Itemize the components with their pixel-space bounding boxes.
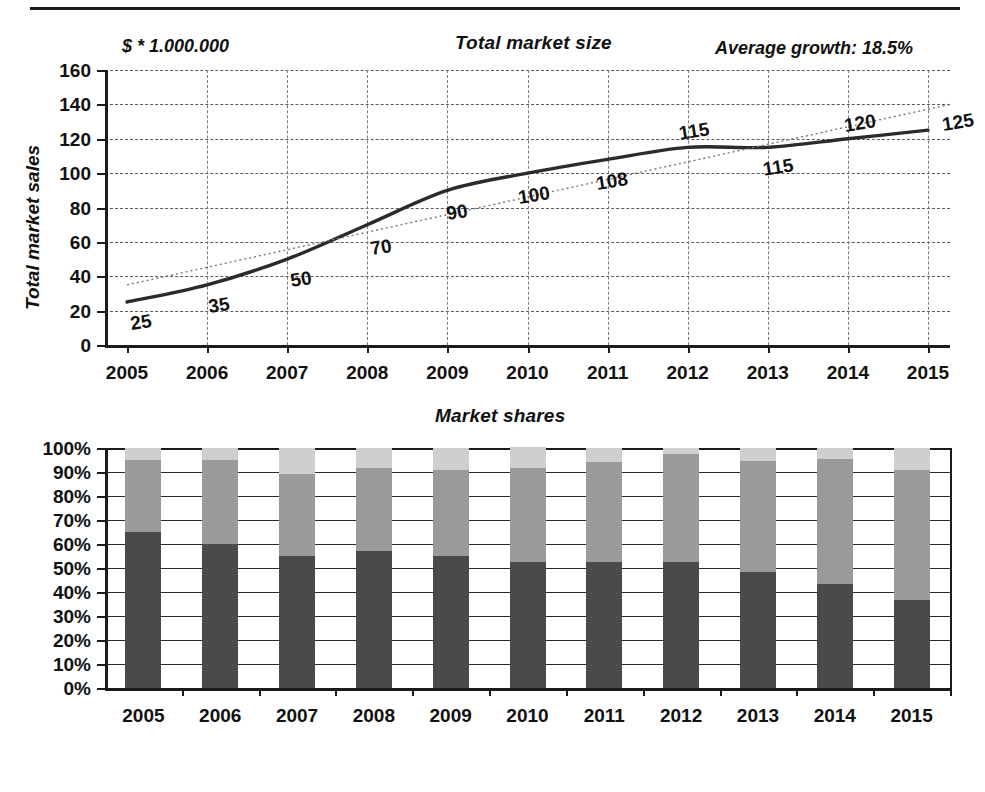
bottom-chart-x-axis (105, 688, 950, 691)
top-chart-y-tick (97, 173, 105, 175)
top-chart-y-tick (97, 311, 105, 313)
bottom-chart-y-tick-label: 40% (53, 583, 91, 602)
total-market-size-chart: Total market size $ * 1.000.000 Average … (0, 20, 985, 395)
bottom-chart-x-tick-label: 2007 (276, 706, 318, 725)
top-chart-data-label: 90 (445, 201, 469, 223)
bottom-chart-y-tick-label: 80% (53, 487, 91, 506)
stacked-bar (433, 448, 469, 688)
top-chart-gridline-v (768, 70, 769, 345)
top-chart-x-tick-label: 2006 (186, 363, 228, 382)
top-chart-y-tick (97, 70, 105, 72)
top-chart-y-tick (97, 242, 105, 244)
top-chart-x-tick-label: 2015 (907, 363, 949, 382)
header-divider (30, 7, 960, 10)
bar-segment-emerging-players (125, 448, 161, 460)
top-chart-title: Total market size (455, 32, 612, 54)
bottom-chart-y-tick (97, 640, 105, 642)
bottom-chart-x-tick-label: 2010 (506, 706, 548, 725)
top-chart-x-tick-label: 2013 (747, 363, 789, 382)
bottom-chart-x-tick-label: 2014 (814, 706, 856, 725)
top-chart-y-tick-label: 140 (59, 95, 91, 114)
bar-segment-leaders (740, 572, 776, 688)
top-chart-x-tick-label: 2008 (346, 363, 388, 382)
top-chart-unit-note: $ * 1.000.000 (122, 36, 229, 57)
top-chart-gridline-v (608, 70, 609, 345)
bar-segment-major-contenders (433, 470, 469, 556)
stacked-bar (894, 448, 930, 688)
top-chart-x-tick-label: 2009 (426, 363, 468, 382)
bar-segment-major-contenders (202, 460, 238, 544)
top-chart-gridline-v (928, 70, 929, 345)
bar-segment-major-contenders (586, 462, 622, 562)
bottom-chart-x-tick (566, 688, 568, 696)
bottom-chart-y-tick (97, 616, 105, 618)
bar-segment-emerging-players (510, 447, 546, 469)
top-chart-y-tick (97, 139, 105, 141)
top-chart-y-tick (97, 104, 105, 106)
bar-segment-emerging-players (356, 448, 392, 468)
top-chart-y-axis (105, 70, 108, 347)
stacked-bar (125, 448, 161, 688)
bottom-chart-y-tick-label: 10% (53, 655, 91, 674)
bar-segment-major-contenders (817, 459, 853, 584)
bar-segment-emerging-players (433, 448, 469, 470)
bar-segment-leaders (663, 562, 699, 688)
bottom-chart-y-tick (97, 520, 105, 522)
top-chart-y-tick (97, 276, 105, 278)
bottom-chart-x-tick (796, 688, 798, 696)
top-chart-data-label: 108 (594, 170, 628, 194)
market-shares-chart: Market shares emerging playersmajor cont… (0, 400, 985, 792)
top-chart-y-tick-label: 40 (70, 267, 91, 286)
bar-segment-emerging-players (279, 448, 315, 474)
bar-segment-leaders (586, 562, 622, 688)
bottom-chart-x-tick-label: 2009 (430, 706, 472, 725)
stacked-bar (356, 448, 392, 688)
bottom-chart-x-tick (335, 688, 337, 696)
top-chart-y-tick-label: 0 (80, 336, 91, 355)
top-chart-gridline-v (528, 70, 529, 345)
top-chart-growth-note: Average growth: 18.5% (715, 38, 913, 59)
bar-segment-emerging-players (663, 448, 699, 454)
stacked-bar (510, 448, 546, 688)
bar-segment-major-contenders (510, 468, 546, 562)
bottom-chart-x-tick-label: 2008 (353, 706, 395, 725)
bottom-chart-x-tick-label: 2013 (737, 706, 779, 725)
top-chart-data-label: 70 (369, 236, 393, 258)
bar-segment-emerging-players (817, 448, 853, 459)
top-chart-data-label: 125 (941, 110, 975, 134)
stacked-bar (202, 448, 238, 688)
bottom-chart-y-tick-label: 0% (64, 679, 91, 698)
bar-segment-emerging-players (894, 448, 930, 470)
bottom-chart-y-tick (97, 664, 105, 666)
top-chart-gridline-v (688, 70, 689, 345)
bar-segment-leaders (433, 556, 469, 688)
top-chart-x-axis (105, 345, 950, 348)
top-chart-x-tick-label: 2014 (827, 363, 869, 382)
top-chart-x-tick-label: 2012 (667, 363, 709, 382)
bottom-chart-y-axis (105, 448, 108, 690)
bar-segment-leaders (279, 556, 315, 688)
stacked-bar (740, 448, 776, 688)
top-chart-y-tick-label: 100 (59, 164, 91, 183)
top-chart-gridline-v (287, 70, 288, 345)
top-chart-y-tick-label: 60 (70, 232, 91, 251)
bottom-chart-x-tick (643, 688, 645, 696)
bar-segment-leaders (202, 544, 238, 688)
top-chart-x-tick-label: 2007 (266, 363, 308, 382)
bottom-chart-x-tick (950, 688, 952, 696)
top-chart-x-tick-label: 2005 (106, 363, 148, 382)
bar-segment-emerging-players (740, 448, 776, 461)
bottom-chart-y-tick (97, 688, 105, 690)
bar-segment-leaders (894, 600, 930, 688)
bottom-chart-y-tick (97, 568, 105, 570)
bar-segment-leaders (817, 584, 853, 688)
bottom-chart-y-tick (97, 448, 105, 450)
top-chart-y-tick-label: 120 (59, 129, 91, 148)
bar-segment-major-contenders (740, 461, 776, 571)
bottom-chart-y-tick-label: 20% (53, 631, 91, 650)
bottom-chart-x-tick-label: 2015 (890, 706, 932, 725)
bottom-chart-y-tick (97, 472, 105, 474)
bottom-chart-x-tick (412, 688, 414, 696)
top-chart-data-label: 115 (761, 156, 794, 180)
bar-segment-emerging-players (586, 448, 622, 462)
